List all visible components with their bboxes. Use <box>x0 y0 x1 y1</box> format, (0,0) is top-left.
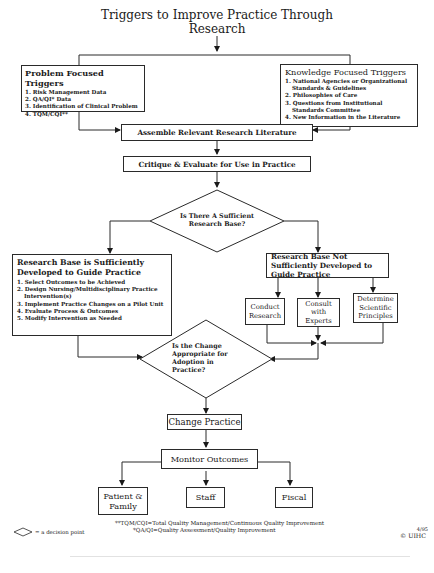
sufficient-step: 3. Implement Practice Changes on a Pilot… <box>17 301 167 308</box>
footnote-qa: *QA/QI=Quality Assessment/Quality Improv… <box>133 527 393 534</box>
fiscal-box: Fiscal <box>275 487 313 508</box>
assemble-literature-box: Assemble Relevant Research Literature <box>121 124 313 141</box>
problem-trigger-item: 3. Identification of Clinical Problem <box>25 103 141 110</box>
problem-trigger-item: 1. Risk Management Data <box>25 89 141 96</box>
copyright-mark: © UIHC <box>386 532 426 539</box>
problem-trigger-item: 2. QA/QI* Data <box>25 96 141 103</box>
problem-triggers-header: Problem Focused Triggers <box>25 68 141 88</box>
sufficient-step: 4. Evaluate Process & Outcomes <box>17 308 167 315</box>
title-line-1: Triggers to Improve Practice Through <box>0 8 434 22</box>
conduct-research-box: Conduct Research <box>245 298 285 325</box>
decision-1-line: Research Base? <box>170 220 264 228</box>
change-practice-box: Change Practice <box>167 414 242 430</box>
decision-2-text: Is the Change Appropriate for Adoption i… <box>172 342 240 374</box>
problem-focused-triggers-box: Problem Focused Triggers 1. Risk Managem… <box>21 65 145 112</box>
assemble-label: Assemble Relevant Research Literature <box>137 128 296 137</box>
consult-experts-box: Consult with Experts <box>297 298 340 327</box>
knowledge-triggers-header: Knowledge Focused Triggers <box>285 67 413 77</box>
diagram-title: Triggers to Improve Practice Through Res… <box>0 8 434 36</box>
knowledge-trigger-item: 4. New Information in the Literature <box>285 114 413 121</box>
monitor-outcomes-label: Monitor Outcomes <box>171 455 249 464</box>
footnote-tqm: **TQM/CQI=Total Quality Management/Conti… <box>115 520 405 527</box>
monitor-outcomes-box: Monitor Outcomes <box>161 449 258 469</box>
change-practice-label: Change Practice <box>168 418 240 427</box>
decision-2-line: Practice? <box>172 366 240 374</box>
knowledge-trigger-item: 3. Questions from Institutional Standard… <box>285 100 413 114</box>
patient-family-box: Patient & Family <box>98 487 148 515</box>
decision-1-text: Is There A Sufficient Research Base? <box>170 212 264 228</box>
fiscal-label: Fiscal <box>282 493 307 502</box>
critique-label: Critique & Evaluate for Use in Practice <box>138 160 295 169</box>
sufficient-header: Research Base is Sufficiently Developed … <box>17 258 167 277</box>
sufficient-step: 5. Modify Intervention as Needed <box>17 315 167 322</box>
not-sufficient-label: Research Base Not Sufficiently Developed… <box>271 252 384 279</box>
decision-2-line: Appropriate for <box>172 350 240 358</box>
patient-family-label: Patient & Family <box>99 491 147 511</box>
knowledge-trigger-item: 2. Philosophies of Care <box>285 92 413 99</box>
determine-principles-label: Determine Scientific Principles <box>354 295 397 321</box>
determine-principles-box: Determine Scientific Principles <box>353 293 398 323</box>
consult-experts-label: Consult with Experts <box>298 300 339 326</box>
not-sufficient-research-base-box: Research Base Not Sufficiently Developed… <box>266 253 389 278</box>
decision-2-line: Adoption in <box>172 358 240 366</box>
sufficient-step: 2. Design Nursing/Multidisciplinary Prac… <box>17 286 167 300</box>
staff-label: Staff <box>196 493 216 502</box>
knowledge-trigger-item: 1. National Agencies or Organizational S… <box>285 78 413 92</box>
scan-artifact-line <box>70 556 410 557</box>
sufficient-step: 1. Select Outcomes to be Achieved <box>17 279 167 286</box>
critique-evaluate-box: Critique & Evaluate for Use in Practice <box>123 156 311 172</box>
conduct-research-label: Conduct Research <box>246 303 284 320</box>
problem-trigger-item: 4. TQM/CQI** <box>25 111 141 118</box>
decision-2-line: Is the Change <box>172 342 240 350</box>
title-line-2: Research <box>0 22 434 36</box>
legend-text: = a decision point <box>35 529 85 536</box>
legend-diamond-icon <box>14 528 32 536</box>
staff-box: Staff <box>186 487 225 508</box>
decision-1-line: Is There A Sufficient <box>170 212 264 220</box>
sufficient-research-base-box: Research Base is Sufficiently Developed … <box>12 254 172 336</box>
knowledge-focused-triggers-box: Knowledge Focused Triggers 1. National A… <box>280 64 418 127</box>
